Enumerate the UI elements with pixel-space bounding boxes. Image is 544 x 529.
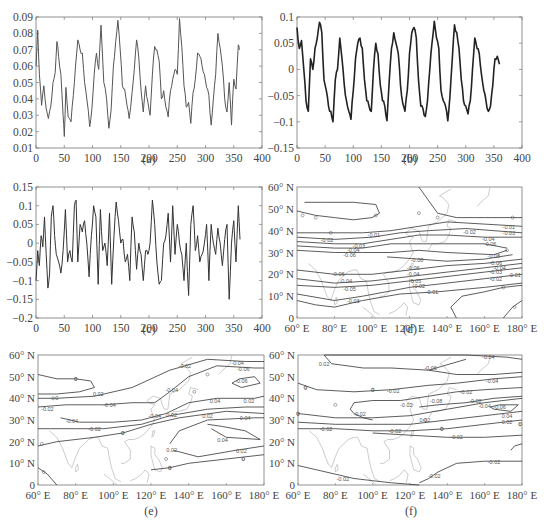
contour-label: 0: [440, 426, 443, 432]
contour-label: -0.02: [387, 388, 400, 394]
contour-label: -0.02: [337, 476, 350, 482]
contour-label: -0.02: [428, 473, 441, 479]
contour-label: -0.04: [486, 378, 499, 384]
contour-label: -0.02: [460, 389, 473, 395]
contour-label: -0.02: [353, 411, 366, 417]
caption-f: (f): [391, 504, 431, 519]
contour-label: 0: [304, 385, 307, 391]
contour-label: -0.08: [430, 398, 443, 404]
contour-label: 0: [519, 421, 522, 427]
contour-line: [511, 444, 522, 451]
lat-tick-label: 50° N: [269, 371, 295, 383]
contour-label: -0.02: [320, 426, 333, 432]
contour-label: -0.02: [400, 402, 413, 408]
contour-label: 0.02: [420, 417, 431, 423]
lat-tick-label: 20° N: [269, 436, 295, 448]
contour-label: -0.04: [478, 403, 491, 409]
lon-tick-label: 80° E: [323, 489, 348, 501]
lon-tick-label: 160° E: [469, 489, 500, 501]
contour-line: [298, 411, 522, 424]
contour-label: -0.04: [482, 354, 495, 360]
lat-tick-label: 30° N: [269, 414, 295, 426]
contour-label: 0.02: [502, 419, 513, 425]
lat-tick-label: 10° N: [269, 457, 295, 469]
lon-tick-label: 100° E: [357, 489, 388, 501]
contour-label: 0.04: [502, 413, 513, 419]
contour-label: -0.06: [493, 404, 506, 410]
contour-label: -0.02: [389, 428, 402, 434]
contour-label: 0: [296, 411, 299, 417]
contour-line: [298, 466, 419, 486]
contour-label: 0.02: [319, 361, 330, 367]
contour-label: -0.06: [424, 365, 437, 371]
lat-tick-label: 60° N: [269, 349, 295, 361]
panel-f: 60° E80° E100° E120° E140° E160° E180° E…: [0, 0, 544, 529]
lon-tick-label: 180° E: [507, 489, 538, 501]
contour-label: -0.02: [450, 434, 463, 440]
lat-tick-label: 0: [290, 479, 296, 491]
lon-tick-label: 120° E: [395, 489, 426, 501]
contour-line: [419, 461, 522, 483]
lat-tick-label: 40° N: [269, 392, 295, 404]
contour-map-f: 60° E80° E100° E120° E140° E160° E180° E…: [0, 0, 544, 529]
contour-label: 0: [371, 387, 374, 393]
zero-marker: [334, 403, 337, 406]
contour-label: -0.02: [488, 459, 501, 465]
lon-tick-label: 140° E: [432, 489, 463, 501]
